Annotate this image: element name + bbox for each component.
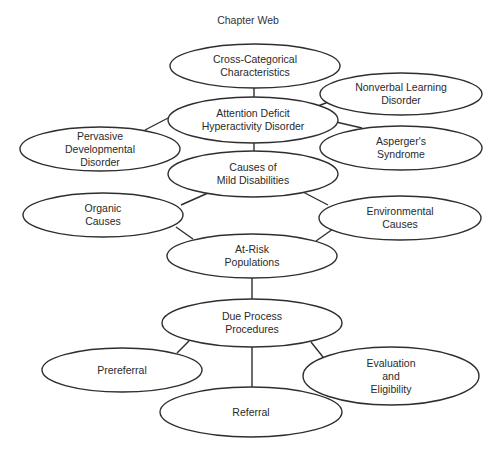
- node-prereferral: [42, 348, 202, 392]
- edge-due-process-to-prereferral: [177, 341, 189, 353]
- edge-organic-to-at-risk: [176, 227, 193, 239]
- node-referral: [160, 387, 342, 437]
- node-organic: [23, 193, 183, 237]
- node-evaluation: [303, 347, 479, 405]
- node-due-process: [162, 299, 342, 347]
- node-adhd: [168, 97, 338, 143]
- node-at-risk: [167, 234, 337, 278]
- edge-causes-to-environmental: [303, 192, 328, 205]
- edge-environmental-to-at-risk: [316, 229, 333, 241]
- chapter-web-diagram: Chapter Web Cross-Categorical Characteri…: [0, 0, 496, 451]
- diagram-canvas: [0, 0, 496, 451]
- edge-adhd-to-aspergers: [336, 122, 362, 128]
- nodes-layer: [20, 44, 482, 437]
- node-pervasive: [20, 127, 180, 171]
- node-environmental: [319, 196, 481, 240]
- node-nonverbal: [320, 73, 482, 115]
- edge-adhd-to-pervasive: [145, 117, 170, 130]
- node-causes: [168, 151, 338, 197]
- edge-causes-to-organic: [181, 193, 208, 205]
- node-cross-categorical: [170, 44, 340, 88]
- node-aspergers: [320, 126, 482, 170]
- edge-due-process-to-evaluation: [311, 342, 323, 357]
